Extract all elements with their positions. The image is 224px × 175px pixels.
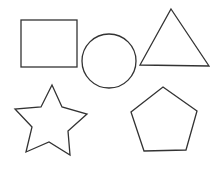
star-shape: [15, 85, 87, 155]
rectangle-shape: [21, 20, 77, 67]
shapes-svg: [0, 0, 224, 175]
circle-shape: [82, 34, 136, 88]
shapes-canvas: [0, 0, 224, 175]
pentagon-shape: [131, 87, 197, 151]
triangle-shape: [140, 9, 209, 66]
